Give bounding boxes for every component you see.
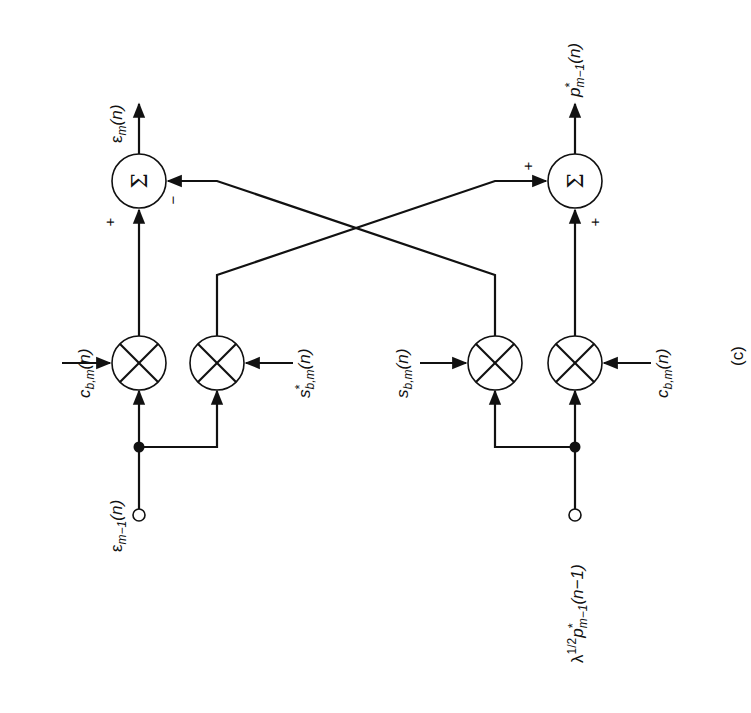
summer-top: Σ [112,154,166,208]
svg-text:Σ: Σ [127,173,152,189]
coef-label-mult-4: cb,m(n) [653,349,675,398]
multiplier-1 [112,336,166,390]
cross-wire-to-bottom-sum [217,181,546,336]
sign-plus-bottom-cross: + [519,161,536,170]
input-label-top: εm−1(n) [107,500,129,552]
input-node-bottom [569,509,581,521]
input-node-top [133,509,145,521]
coef-label-mult-2: s*b,m(n) [292,349,317,398]
wire [139,391,217,447]
summer-bottom: Σ [548,154,602,208]
svg-text:Σ: Σ [563,173,588,189]
coef-label-mult-3: sb,m(n) [393,349,415,398]
lattice-stage-diagram: Σ + − Σ + + εm(n) p*m−1(n) [0,0,751,713]
panel-label: (c) [728,346,747,366]
sign-minus-top-cross: − [164,195,181,204]
coef-label-mult-1: cb,m(n) [75,349,97,398]
sign-plus-bottom-direct: + [586,217,603,226]
multiplier-4 [548,336,602,390]
wire [495,391,575,447]
output-label-bottom: p*m−1(n) [562,43,587,98]
multiplier-2 [190,336,244,390]
output-label-top: εm(n) [107,105,129,143]
input-label-bottom: λ1/2p*m−1(n−1) [565,564,590,663]
sign-plus-top-direct: + [101,217,118,226]
multiplier-3 [468,336,522,390]
